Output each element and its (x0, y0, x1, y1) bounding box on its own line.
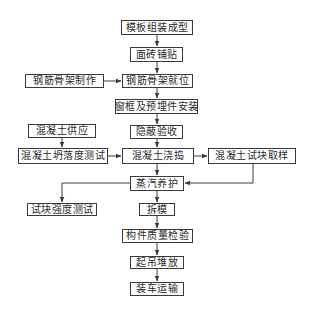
node-specimen-sampling: 混凝土试块取样 (208, 148, 296, 164)
node-specimen-strength-test: 试块强度测试 (27, 203, 97, 216)
node-concealed-inspection: 隐蔽验收 (130, 125, 183, 139)
node-loading-transport: 装车运输 (130, 282, 184, 296)
flowchart-canvas: 模板组装成型 面砖铺贴 钢筋骨架制作 钢筋骨架就位 窗框及预埋件安装 隐蔽验收 … (0, 0, 312, 313)
node-demolding: 拆模 (139, 203, 175, 216)
edge-sample-steam (185, 164, 253, 183)
node-rebar-cage-placement: 钢筋骨架就位 (122, 74, 193, 88)
node-rebar-cage-fabrication: 钢筋骨架制作 (25, 74, 104, 88)
node-lifting-stacking: 起吊堆放 (130, 256, 184, 269)
node-slump-test: 混凝土坍落度测试 (18, 148, 108, 164)
node-steam-curing: 蒸汽养护 (130, 176, 184, 191)
node-tile-laying: 面砖铺贴 (130, 47, 183, 62)
node-concrete-supply: 混凝土供应 (28, 124, 96, 138)
node-window-frame-embedded-install: 窗框及预埋件安装 (115, 99, 198, 114)
edge-steam-strength (62, 183, 130, 202)
node-formwork-assembly: 模板组装成型 (121, 20, 193, 35)
node-concrete-pouring: 混凝土浇捣 (122, 148, 194, 164)
node-quality-inspection: 构件质量检验 (122, 229, 193, 243)
